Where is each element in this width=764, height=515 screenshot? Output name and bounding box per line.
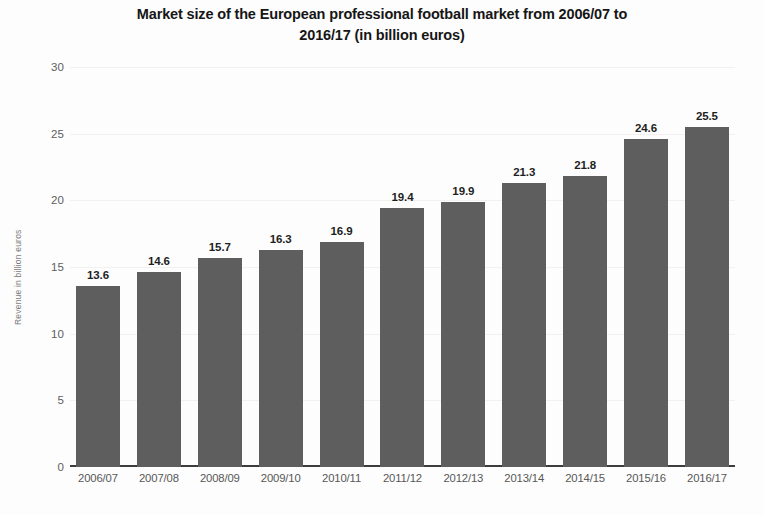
bar-value-label: 19.4 (391, 191, 413, 203)
x-tick-label: 2008/09 (198, 472, 242, 494)
y-tick-label: 30 (24, 61, 64, 73)
bar[interactable] (624, 139, 668, 467)
x-tick-label: 2016/17 (685, 472, 729, 494)
bar-value-label: 25.5 (696, 110, 718, 122)
x-tick-label: 2015/16 (624, 472, 668, 494)
bar[interactable] (259, 250, 303, 467)
bar-group: 21.8 (563, 62, 607, 467)
chart-title: Market size of the European professional… (0, 4, 764, 46)
bar-value-label: 16.9 (331, 225, 353, 237)
bar-group: 24.6 (624, 62, 668, 467)
x-tick-label: 2011/12 (380, 472, 424, 494)
bar-group: 14.6 (137, 62, 181, 467)
bar[interactable] (76, 286, 120, 467)
bar[interactable] (380, 208, 424, 467)
bar[interactable] (198, 258, 242, 467)
bar-group: 13.6 (76, 62, 120, 467)
x-axis-ticks: 2006/072007/082008/092009/102010/112011/… (70, 472, 735, 494)
bar-group: 21.3 (502, 62, 546, 467)
bar-group: 19.4 (380, 62, 424, 467)
y-tick-label: 5 (24, 394, 64, 406)
x-tick-label: 2009/10 (259, 472, 303, 494)
bar[interactable] (441, 202, 485, 467)
y-tick-label: 10 (24, 328, 64, 340)
y-tick-label: 15 (24, 261, 64, 273)
bar-value-label: 14.6 (148, 255, 170, 267)
y-tick-label: 25 (24, 128, 64, 140)
x-tick-label: 2014/15 (563, 472, 607, 494)
bar[interactable] (685, 127, 729, 467)
y-tick-label: 0 (24, 461, 64, 473)
x-tick-label: 2010/11 (320, 472, 364, 494)
bar[interactable] (563, 176, 607, 467)
x-tick-label: 2006/07 (76, 472, 120, 494)
bar-group: 25.5 (685, 62, 729, 467)
bar-value-label: 15.7 (209, 241, 231, 253)
bar-chart: Market size of the European professional… (0, 0, 764, 515)
bar-group: 16.3 (259, 62, 303, 467)
bar-group: 19.9 (441, 62, 485, 467)
bar[interactable] (502, 183, 546, 467)
bar-value-label: 16.3 (270, 233, 292, 245)
bar-value-label: 24.6 (635, 122, 657, 134)
bar-value-label: 19.9 (452, 185, 474, 197)
bar-value-label: 13.6 (87, 269, 109, 281)
bar-value-label: 21.3 (513, 166, 535, 178)
bar-group: 15.7 (198, 62, 242, 467)
y-axis-ticks: 302520151050 (16, 62, 64, 471)
x-tick-label: 2013/14 (502, 472, 546, 494)
bar-value-label: 21.8 (574, 159, 596, 171)
x-tick-label: 2012/13 (441, 472, 485, 494)
x-tick-label: 2007/08 (137, 472, 181, 494)
y-tick-label: 20 (24, 194, 64, 206)
bar-group: 16.9 (320, 62, 364, 467)
bar[interactable] (320, 242, 364, 467)
bar[interactable] (137, 272, 181, 467)
bars-container: 13.614.615.716.316.919.419.921.321.824.6… (70, 62, 735, 467)
